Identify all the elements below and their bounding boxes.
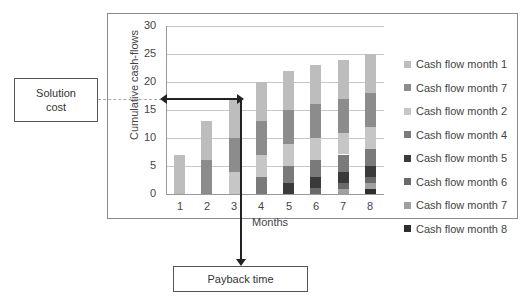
bar-segment bbox=[365, 54, 376, 93]
bar-segment bbox=[338, 99, 349, 133]
bar-segment bbox=[365, 149, 376, 166]
gridline bbox=[166, 54, 384, 55]
legend-label: Cash flow month 1 bbox=[416, 58, 507, 70]
legend-item: Cash flow month 4 bbox=[404, 129, 507, 141]
bar-segment bbox=[229, 172, 240, 194]
y-tick-label: 25 bbox=[144, 47, 156, 59]
legend-item: Cash flow month 6 bbox=[404, 176, 507, 188]
y-tick-label: 30 bbox=[144, 19, 156, 31]
bar-segment bbox=[310, 65, 321, 104]
bar-segment bbox=[283, 166, 294, 183]
x-tick-label: 6 bbox=[313, 200, 319, 212]
payback-time-box: Payback time bbox=[173, 266, 308, 292]
legend-item: Cash flow month 1 bbox=[404, 58, 507, 70]
bar-segment bbox=[283, 71, 294, 110]
bar-segment bbox=[365, 183, 376, 189]
arrow-head-down-icon bbox=[236, 259, 246, 266]
bar-segment bbox=[365, 127, 376, 149]
bar-segment bbox=[338, 132, 349, 154]
solution-cost-label: Solution cost bbox=[31, 86, 81, 114]
bar-segment bbox=[201, 121, 212, 160]
legend-swatch-icon bbox=[404, 202, 411, 209]
divider-line bbox=[0, 253, 522, 254]
gridline bbox=[166, 166, 384, 167]
gridline bbox=[166, 194, 384, 195]
bar-segment bbox=[310, 104, 321, 138]
legend-label: Cash flow month 8 bbox=[416, 223, 507, 235]
solution-cost-box: Solution cost bbox=[14, 78, 98, 122]
arrow-head-left-icon bbox=[160, 94, 167, 104]
solution-cost-arrow-line bbox=[163, 98, 241, 100]
x-tick-label: 7 bbox=[340, 200, 346, 212]
legend-label: Cash flow month 6 bbox=[416, 176, 507, 188]
legend-swatch-icon bbox=[404, 84, 411, 91]
legend-swatch-icon bbox=[404, 108, 411, 115]
payback-arrow-line bbox=[240, 98, 242, 262]
legend-item: Cash flow month 7 bbox=[404, 199, 507, 211]
solution-cost-dashed-line bbox=[98, 99, 162, 100]
bar-segment bbox=[229, 138, 240, 172]
bar-segment bbox=[338, 60, 349, 99]
x-tick-label: 2 bbox=[204, 200, 210, 212]
bar-segment bbox=[174, 155, 185, 194]
legend-item: Cash flow month 8 bbox=[404, 223, 507, 235]
legend-label: Cash flow month 7 bbox=[416, 199, 507, 211]
y-axis-line bbox=[166, 26, 167, 194]
legend-swatch-icon bbox=[404, 225, 411, 232]
y-axis-title: Cumulative cash-flows bbox=[128, 30, 140, 140]
y-tick-label: 15 bbox=[144, 103, 156, 115]
bar-segment bbox=[283, 110, 294, 144]
x-tick-label: 1 bbox=[177, 200, 183, 212]
x-tick-label: 8 bbox=[367, 200, 373, 212]
legend-swatch-icon bbox=[404, 61, 411, 68]
x-tick-label: 5 bbox=[286, 200, 292, 212]
legend-swatch-icon bbox=[404, 131, 411, 138]
bar-segment bbox=[283, 144, 294, 166]
bar-segment bbox=[310, 188, 321, 194]
legend-label: Cash flow month 7 bbox=[416, 82, 507, 94]
legend-swatch-icon bbox=[404, 155, 411, 162]
legend-label: Cash flow month 5 bbox=[416, 152, 507, 164]
bar-segment bbox=[310, 160, 321, 177]
y-tick-label: 0 bbox=[150, 187, 156, 199]
gridline bbox=[166, 138, 384, 139]
bar-segment bbox=[365, 166, 376, 177]
bar-segment bbox=[256, 82, 267, 121]
legend-item: Cash flow month 7 bbox=[404, 82, 507, 94]
y-tick-label: 10 bbox=[144, 131, 156, 143]
gridline bbox=[166, 110, 384, 111]
legend-item: Cash flow month 5 bbox=[404, 152, 507, 164]
bar-segment bbox=[338, 172, 349, 183]
y-tick-label: 5 bbox=[150, 159, 156, 171]
bar-segment bbox=[229, 99, 240, 138]
gridline bbox=[166, 26, 384, 27]
legend-item: Cash flow month 2 bbox=[404, 105, 507, 117]
legend-label: Cash flow month 4 bbox=[416, 129, 507, 141]
bar-segment bbox=[338, 155, 349, 172]
gridline bbox=[166, 82, 384, 83]
x-axis-title: Months bbox=[252, 216, 288, 228]
legend-label: Cash flow month 2 bbox=[416, 105, 507, 117]
bar-segment bbox=[283, 183, 294, 194]
bar-segment bbox=[310, 138, 321, 160]
x-tick-label: 3 bbox=[231, 200, 237, 212]
legend-swatch-icon bbox=[404, 178, 411, 185]
y-tick-label: 20 bbox=[144, 75, 156, 87]
bar-segment bbox=[338, 183, 349, 189]
bar-segment bbox=[256, 121, 267, 155]
bar-segment bbox=[256, 155, 267, 177]
bar-segment bbox=[256, 177, 267, 194]
x-tick-label: 4 bbox=[258, 200, 264, 212]
bar-segment bbox=[365, 177, 376, 183]
bar-segment bbox=[365, 93, 376, 127]
payback-time-label: Payback time bbox=[207, 272, 273, 286]
bar-segment bbox=[310, 177, 321, 188]
bar-segment bbox=[201, 160, 212, 194]
